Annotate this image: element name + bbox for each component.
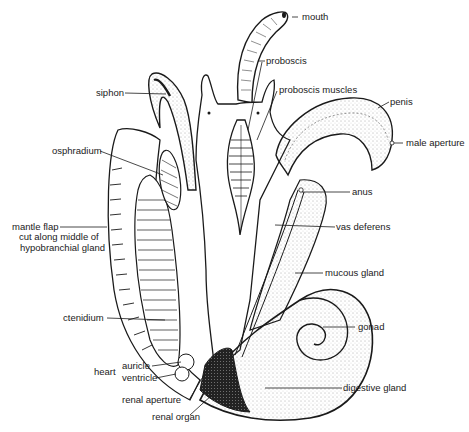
label-auricle: auricle [122, 360, 150, 371]
anatomy-drawing [0, 0, 469, 432]
label-gonad: gonad [358, 321, 384, 332]
label-vas-deferens: vas deferens [336, 221, 390, 232]
label-mantle-flap-line2: cut along middle of [19, 232, 99, 243]
label-anus: anus [352, 186, 373, 197]
label-mouth: mouth [302, 11, 328, 22]
snail-anatomy-diagram: mouth proboscis proboscis muscles siphon… [0, 0, 469, 432]
label-heart: heart [94, 366, 116, 377]
label-renal-organ: renal organ [152, 411, 200, 422]
ventricle-shape [175, 367, 189, 381]
label-male-aperture: male aperture [406, 137, 465, 148]
label-proboscis-muscles: proboscis muscles [279, 84, 357, 95]
label-mucous-gland: mucous gland [325, 267, 384, 278]
label-siphon: siphon [96, 87, 124, 98]
label-osphradium: osphradium [52, 145, 102, 156]
label-proboscis: proboscis [266, 55, 307, 66]
label-penis: penis [390, 96, 413, 107]
label-ventricle: ventricle [122, 372, 157, 383]
label-ctenidium: ctenidium [63, 312, 104, 323]
penis-shape [276, 98, 392, 175]
label-digestive-gland: digestive gland [343, 382, 406, 393]
label-renal-aperture: renal aperture [122, 394, 181, 405]
label-mantle-flap-line3: hypobranchial gland [20, 243, 105, 254]
